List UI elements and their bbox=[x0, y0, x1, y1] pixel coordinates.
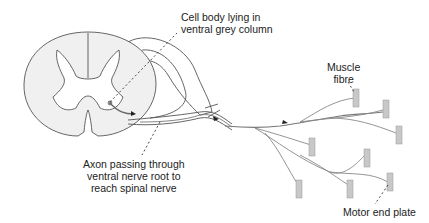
muscle-fibre bbox=[347, 180, 353, 198]
cell-body-label: Cell body lying in ventral grey column bbox=[181, 11, 273, 35]
muscle-fibre bbox=[353, 89, 359, 107]
axon-label: Axon passing through ventral nerve root … bbox=[83, 158, 185, 194]
muscle-fibre bbox=[396, 126, 402, 144]
muscle-fibres bbox=[296, 89, 402, 198]
muscle-fibre bbox=[309, 138, 315, 156]
muscle-fibre bbox=[387, 173, 393, 191]
muscle-fibre bbox=[296, 180, 302, 198]
muscle-fibre bbox=[364, 149, 370, 167]
axon-leader bbox=[142, 122, 160, 155]
motor-end-plate-label: Motor end plate bbox=[343, 206, 416, 218]
motor-end-plate-leader bbox=[375, 185, 388, 204]
muscle-fibre-label: Muscle fibre bbox=[327, 61, 360, 85]
muscle-fibre bbox=[383, 100, 389, 118]
nerve-branches bbox=[255, 98, 396, 186]
arrow-icon bbox=[282, 120, 288, 124]
